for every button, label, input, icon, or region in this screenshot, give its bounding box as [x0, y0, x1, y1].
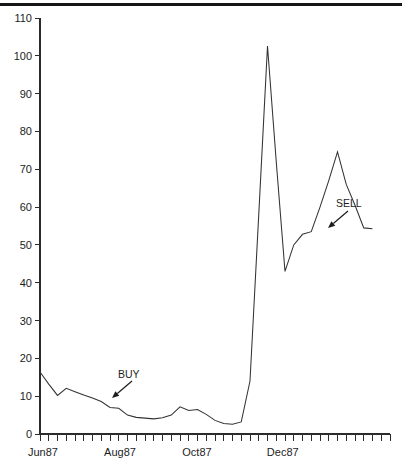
y-axis-tick-label: 40 [20, 277, 32, 289]
annotation-label-sell: SELL [336, 197, 362, 209]
y-axis-tick-label: 10 [20, 390, 32, 402]
y-axis-tick-label: 0 [26, 428, 32, 440]
y-axis-tick-label: 110 [14, 12, 32, 24]
y-axis-tick-label: 50 [20, 239, 32, 251]
y-axis-tick-label: 80 [20, 125, 32, 137]
y-axis-tick-label: 60 [20, 201, 32, 213]
y-axis-tick-label: 100 [14, 50, 32, 62]
y-axis-tick-label: 20 [20, 352, 32, 364]
data-series [40, 46, 373, 424]
annotations-layer: BUYSELL [112, 197, 362, 398]
y-axis: 0102030405060708090100110 [14, 12, 40, 440]
y-axis-tick-label: 70 [20, 163, 32, 175]
chart-figure: 0102030405060708090100110 Jun87Aug87Oct8… [0, 0, 402, 467]
annotation-arrow-shaft-sell [333, 211, 348, 223]
y-axis-tick-label: 30 [20, 315, 32, 327]
stock-price-line-chart: 0102030405060708090100110 Jun87Aug87Oct8… [0, 0, 402, 467]
x-axis: Jun87Aug87Oct87Dec87 [28, 434, 390, 458]
x-axis-tick-label: Jun87 [28, 446, 58, 458]
x-axis-tick-label: Aug87 [104, 446, 136, 458]
x-axis-tick-label: Dec87 [267, 446, 299, 458]
annotation-label-buy: BUY [118, 368, 140, 380]
annotation-arrow-shaft-buy [117, 381, 132, 393]
y-axis-tick-label: 90 [20, 88, 32, 100]
x-axis-tick-label: Oct87 [182, 446, 211, 458]
series-line-price [40, 46, 373, 424]
